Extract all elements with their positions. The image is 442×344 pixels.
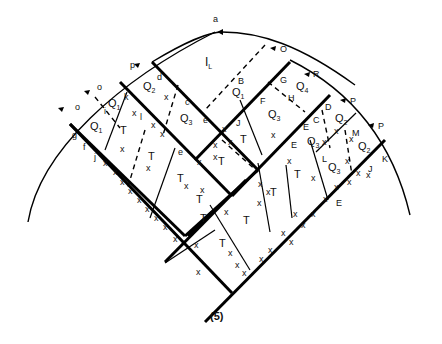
x-marks-right: x x x x x x x x x x x x x x x x x x x x … bbox=[224, 126, 371, 278]
label-a: a bbox=[213, 14, 218, 24]
svg-text:x: x bbox=[160, 129, 165, 139]
svg-text:x: x bbox=[311, 173, 316, 183]
region-T-1: T bbox=[120, 124, 127, 136]
label-l: l bbox=[140, 112, 142, 122]
label-D: D bbox=[325, 102, 332, 112]
svg-text:x: x bbox=[145, 204, 150, 214]
label-B: B bbox=[238, 76, 244, 86]
svg-text:x: x bbox=[349, 134, 354, 144]
svg-text:x: x bbox=[120, 177, 125, 187]
label-O: O bbox=[280, 44, 287, 54]
arrow-O-icon bbox=[270, 46, 276, 51]
label-F: F bbox=[260, 96, 266, 106]
region-T-11: T bbox=[200, 212, 207, 224]
svg-text:x: x bbox=[235, 260, 240, 270]
svg-text:x: x bbox=[120, 144, 125, 154]
region-T-10: T bbox=[219, 237, 226, 249]
svg-text:x: x bbox=[242, 268, 247, 278]
svg-text:x: x bbox=[173, 234, 178, 244]
label-j: j bbox=[93, 152, 96, 162]
label-L: L bbox=[322, 154, 327, 164]
label-K: K bbox=[382, 154, 388, 164]
outer-arc-top bbox=[152, 32, 355, 85]
label-g: g bbox=[72, 130, 77, 140]
region-T-5: T bbox=[218, 155, 225, 167]
svg-text:x: x bbox=[164, 92, 169, 102]
label-E2: E bbox=[291, 140, 297, 150]
svg-text:x: x bbox=[258, 179, 263, 189]
thin-line-4 bbox=[240, 100, 262, 155]
svg-text:x: x bbox=[271, 130, 276, 140]
svg-text:x: x bbox=[213, 152, 218, 162]
arrow-R-icon bbox=[304, 72, 310, 77]
svg-text:x: x bbox=[197, 157, 202, 167]
region-T-2: T bbox=[148, 150, 155, 162]
label-E1: E bbox=[303, 122, 309, 132]
svg-text:x: x bbox=[366, 170, 371, 180]
figure-caption: (5) bbox=[210, 310, 224, 322]
label-C: C bbox=[313, 115, 320, 125]
region-T-6: T bbox=[240, 133, 247, 145]
svg-text:x: x bbox=[257, 198, 262, 208]
region-T-7: T bbox=[243, 214, 250, 226]
label-i: i bbox=[104, 106, 106, 116]
region-Q1-right: Q1 bbox=[232, 86, 245, 100]
label-o1: o bbox=[97, 82, 102, 92]
label-k: k bbox=[124, 92, 129, 102]
label-P1: P bbox=[350, 96, 356, 106]
region-Q1-left-b: Q1 bbox=[90, 120, 103, 134]
label-G: G bbox=[280, 75, 287, 85]
thin-line-6 bbox=[286, 165, 292, 218]
region-Q3-left: Q3 bbox=[180, 112, 193, 126]
svg-text:x: x bbox=[113, 167, 118, 177]
svg-text:x: x bbox=[128, 186, 133, 196]
svg-text:x: x bbox=[154, 213, 159, 223]
region-Q3-right-a: Q3 bbox=[268, 108, 281, 122]
svg-text:x: x bbox=[224, 207, 229, 217]
region-T-8: T bbox=[270, 186, 277, 198]
label-e1: e bbox=[203, 115, 208, 125]
label-P2: P bbox=[378, 121, 384, 131]
arrow-o-icon bbox=[84, 90, 90, 95]
svg-text:x: x bbox=[356, 168, 361, 178]
svg-text:x: x bbox=[347, 177, 352, 187]
svg-text:x: x bbox=[259, 254, 264, 264]
region-T-3: T bbox=[177, 172, 184, 184]
arrow-o2-icon bbox=[58, 107, 64, 112]
region-Q3-right-b: Q3 bbox=[307, 135, 320, 149]
arrow-a-icon bbox=[217, 29, 223, 35]
arrow-P-icon bbox=[340, 98, 346, 103]
svg-text:x: x bbox=[146, 163, 151, 173]
svg-text:x: x bbox=[281, 228, 286, 238]
svg-text:x: x bbox=[137, 195, 142, 205]
tiling-diagram: a IL p o o d k i g f j c e e l Q2 Q1 Q1 … bbox=[0, 0, 442, 344]
svg-text:x: x bbox=[323, 194, 328, 204]
svg-text:x: x bbox=[301, 220, 306, 230]
svg-text:x: x bbox=[334, 126, 339, 136]
svg-text:x: x bbox=[132, 108, 137, 118]
svg-text:x: x bbox=[293, 209, 298, 219]
label-d: d bbox=[157, 72, 162, 82]
region-Q1-left-a: Q1 bbox=[108, 97, 121, 111]
svg-text:x: x bbox=[184, 181, 189, 191]
svg-text:x: x bbox=[222, 124, 227, 134]
region-T-9: T bbox=[294, 168, 301, 180]
label-c: c bbox=[185, 97, 190, 107]
svg-text:x: x bbox=[287, 156, 292, 166]
svg-text:x: x bbox=[334, 182, 339, 192]
label-E3: E bbox=[336, 198, 342, 208]
svg-text:x: x bbox=[213, 140, 218, 150]
label-J1: J bbox=[236, 118, 241, 128]
svg-text:x: x bbox=[194, 240, 199, 250]
svg-text:x: x bbox=[228, 248, 233, 258]
region-Q2-right-b: Q2 bbox=[358, 140, 371, 154]
svg-text:x: x bbox=[151, 120, 156, 130]
svg-text:x: x bbox=[196, 267, 201, 277]
svg-text:x: x bbox=[289, 237, 294, 247]
label-o2: o bbox=[75, 102, 80, 112]
svg-text:x: x bbox=[345, 156, 350, 166]
region-Q2-right-a: Q2 bbox=[335, 112, 348, 126]
label-R: R bbox=[313, 69, 320, 79]
svg-text:x: x bbox=[268, 245, 273, 255]
region-Q4: Q4 bbox=[296, 80, 309, 94]
